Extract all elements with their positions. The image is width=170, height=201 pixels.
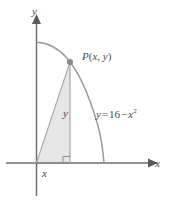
curve-equation-label: y=16−x2 [96,109,137,120]
point-p-marker [67,59,73,65]
parabola-figure: y x P(x, y) y x y=16−x2 [0,0,170,201]
base-segment-label: x [42,168,47,179]
x-axis-label: x [155,158,160,169]
equation-constant: 16 [109,108,120,120]
vertical-segment-label: y [63,108,68,119]
equation-equals: = [101,108,109,120]
point-p-name: P [82,50,89,62]
point-p-close-paren: ) [108,50,112,62]
figure-canvas [0,0,170,201]
y-axis-label: y [32,6,37,17]
point-p-label: P(x, y) [82,51,111,62]
equation-exponent: 2 [133,107,137,115]
